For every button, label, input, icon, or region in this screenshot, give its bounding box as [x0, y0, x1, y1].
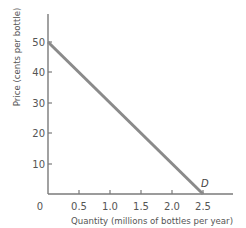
demand-chart: 10 20 30 40 50 0 0.5 1.0 1.5 2.0 2.5 Qua…: [0, 0, 246, 228]
y-tick-label: 10: [32, 159, 45, 170]
demand-curve: [48, 42, 203, 194]
origin-label: 0: [37, 201, 43, 212]
x-tick-label: 2.5: [195, 201, 211, 212]
y-tick-label: 40: [32, 67, 45, 78]
y-tick-label: 20: [32, 128, 45, 139]
x-tick-label: 1.0: [102, 201, 118, 212]
y-axis-title: Price (cents per bottle): [12, 8, 22, 107]
x-axis-title: Quantity (millions of bottles per year): [71, 216, 233, 226]
y-tick-label: 50: [32, 37, 45, 48]
demand-curve-label: D: [201, 178, 209, 189]
x-tick-label: 1.5: [133, 201, 149, 212]
x-tick-label: 2.0: [164, 201, 180, 212]
x-tick-label: 0.5: [71, 201, 87, 212]
y-tick-label: 30: [32, 98, 45, 109]
